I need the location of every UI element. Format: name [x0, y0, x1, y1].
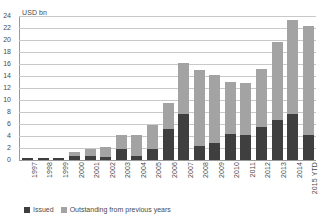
bar-segment-outstanding [131, 135, 142, 156]
x-axis-tick-label: 2015 YTD [311, 162, 318, 194]
x-axis-tick-label: 2007 [187, 162, 194, 178]
gridline [19, 160, 316, 161]
y-axis-tick-label: 4 [0, 132, 11, 139]
bar-segment-issued [225, 134, 236, 160]
x-axis-tick-label: 2001 [93, 162, 100, 178]
legend-item-outstanding: Outstanding from previous years [61, 206, 171, 213]
bar-segment-issued [194, 146, 205, 160]
bar-segment-issued [116, 149, 127, 160]
stacked-bar-chart: USD bn 024681012141618202224 19971998199… [0, 0, 322, 224]
bar-segment-issued [69, 156, 80, 160]
bar-segment-issued [240, 135, 251, 160]
x-axis-tick-label: 2004 [140, 162, 147, 178]
x-axis-tick-label: 2011 [249, 162, 256, 177]
bar-segment-issued [147, 149, 158, 160]
x-axis-tick-label: 2002 [109, 162, 116, 178]
bar-segment-issued [53, 158, 64, 160]
y-axis-tick-label: 24 [0, 12, 11, 19]
y-axis-tick-label: 8 [0, 108, 11, 115]
bar-segment-outstanding [163, 103, 174, 129]
bar-segment-issued [163, 129, 174, 160]
bar-segment-issued [256, 127, 267, 160]
legend-swatch-icon-issued [24, 207, 30, 213]
x-axis-tick-label: 1999 [62, 162, 69, 178]
bars-layer [20, 16, 316, 160]
bar-segment-outstanding [209, 75, 220, 142]
x-axis-tick-label: 2010 [233, 162, 240, 178]
bar-segment-outstanding [85, 149, 96, 157]
y-axis-tick-label: 14 [0, 72, 11, 79]
bar-segment-issued [178, 114, 189, 160]
x-axis-tick-label: 2013 [280, 162, 287, 178]
bar-segment-issued [303, 135, 314, 160]
y-axis-tick-label: 10 [0, 96, 11, 103]
legend-item-issued: Issued [24, 206, 54, 213]
bar-segment-issued [131, 156, 142, 160]
bar-segment-outstanding [147, 125, 158, 149]
bar-segment-outstanding [287, 20, 298, 114]
y-axis-tick-label: 22 [0, 24, 11, 31]
legend-swatch-icon-outstanding [61, 207, 67, 213]
legend-label-outstanding: Outstanding from previous years [70, 206, 171, 213]
bar-segment-outstanding [225, 82, 236, 134]
x-axis-tick-label: 1998 [46, 162, 53, 178]
bar-segment-issued [272, 120, 283, 160]
y-axis-tick-label: 2 [0, 144, 11, 151]
legend-label-issued: Issued [33, 206, 54, 213]
bar-segment-issued [287, 114, 298, 160]
x-axis-labels: 1997199819992000200120022003200420052006… [20, 162, 316, 204]
y-axis-tick-label: 20 [0, 36, 11, 43]
x-axis-tick-label: 1997 [31, 162, 38, 178]
y-axis-tick-label: 0 [0, 156, 11, 163]
bar-segment-issued [38, 158, 49, 160]
axis-unit-label: USD bn [22, 9, 47, 16]
bar-segment-outstanding [194, 70, 205, 146]
bar-segment-issued [100, 157, 111, 160]
bar-segment-issued [85, 156, 96, 160]
y-axis-tick-label: 12 [0, 84, 11, 91]
bar-segment-outstanding [240, 83, 251, 135]
x-axis-tick-label: 2006 [171, 162, 178, 178]
x-axis-tick-label: 2008 [202, 162, 209, 178]
bar-segment-outstanding [100, 147, 111, 157]
x-axis-tick-label: 2012 [264, 162, 271, 178]
x-axis-tick-label: 2005 [155, 162, 162, 178]
bar-segment-outstanding [272, 42, 283, 120]
y-axis-tick-label: 16 [0, 60, 11, 67]
x-axis-tick-label: 2009 [218, 162, 225, 178]
bar-segment-outstanding [303, 26, 314, 136]
x-axis-tick-label: 2014 [296, 162, 303, 178]
y-axis-tick-label: 6 [0, 120, 11, 127]
bar-segment-outstanding [116, 135, 127, 148]
plot-area: 024681012141618202224 [19, 16, 316, 160]
bar-segment-issued [22, 158, 33, 160]
bar-segment-outstanding [178, 63, 189, 114]
bar-segment-issued [209, 143, 220, 160]
x-axis-tick-label: 2003 [124, 162, 131, 178]
x-axis-tick-label: 2000 [78, 162, 85, 178]
y-axis-tick-label: 18 [0, 48, 11, 55]
bar-segment-outstanding [256, 69, 267, 127]
chart-legend: Issued Outstanding from previous years [24, 206, 171, 213]
